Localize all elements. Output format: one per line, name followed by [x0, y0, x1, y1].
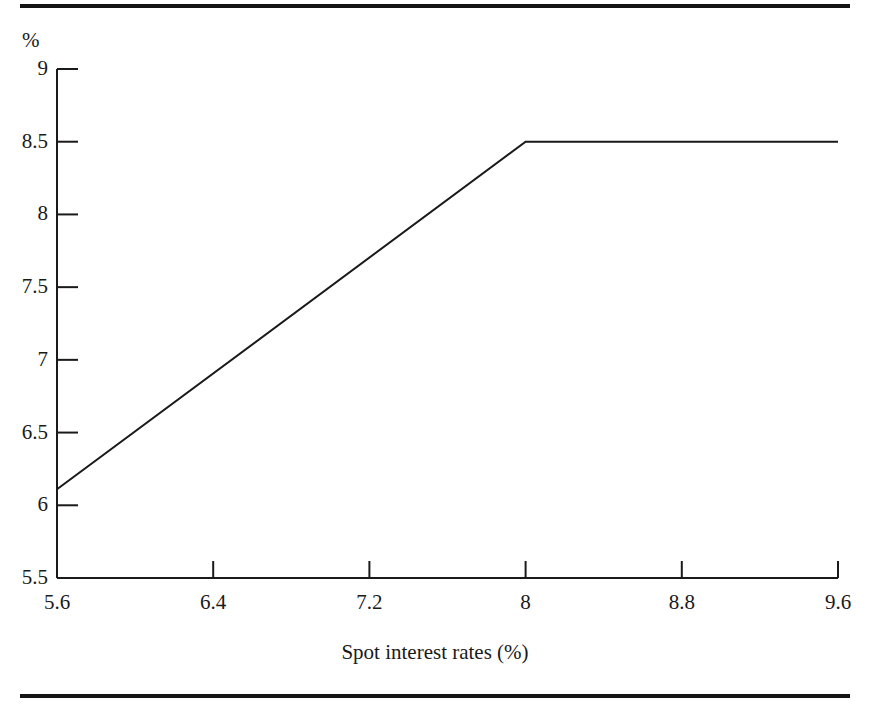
x-axis-tick-label: 8	[481, 592, 571, 613]
plot-area	[0, 0, 870, 707]
y-axis-tick-label: 8	[0, 203, 48, 224]
x-axis-tick-label: 6.4	[168, 592, 258, 613]
y-axis-tick-label: 8.5	[0, 131, 48, 152]
y-axis-tick-label: 6.5	[0, 422, 48, 443]
chart-figure: % 5.566.577.588.59 5.66.47.288.89.6 Spot…	[0, 0, 870, 707]
y-axis-tick-label: 6	[0, 494, 48, 515]
x-axis-tick-marks	[57, 561, 838, 578]
y-axis-tick-label: 7.5	[0, 276, 48, 297]
x-axis-tick-label: 8.8	[637, 592, 727, 613]
y-axis-tick-label: 5.5	[0, 567, 48, 588]
x-axis-tick-label: 7.2	[324, 592, 414, 613]
y-axis-tick-marks	[57, 69, 78, 505]
series-line-capped-floating-rate	[57, 142, 838, 490]
x-axis-tick-label: 5.6	[12, 592, 102, 613]
x-axis-tick-label: 9.6	[793, 592, 870, 613]
y-axis-tick-label: 7	[0, 349, 48, 370]
y-axis-tick-label: 9	[0, 58, 48, 79]
x-axis-title: Spot interest rates (%)	[0, 640, 870, 664]
